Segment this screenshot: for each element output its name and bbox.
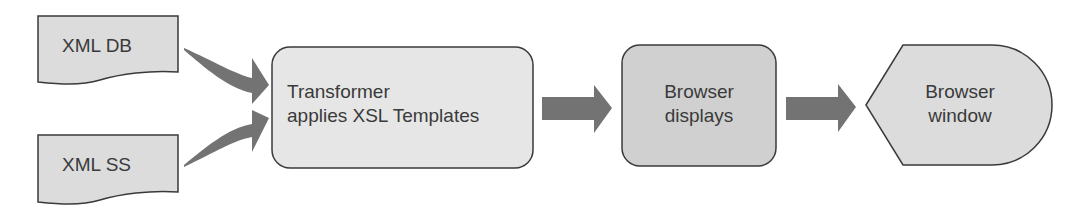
transformer-label-line2: applies XSL Templates — [287, 104, 479, 128]
browser-window-label-line1: Browser — [905, 80, 1015, 104]
arrow-xmlss-to-transformer — [184, 110, 269, 167]
browser-displays-label-line1: Browser — [622, 80, 776, 104]
xml-ss-label: XML SS — [62, 153, 131, 177]
arrow-xmldb-to-transformer — [184, 48, 269, 104]
transformer-label-line1: Transformer — [287, 80, 479, 104]
browser-displays-label-line2: displays — [622, 104, 776, 128]
arrow-transformer-to-browser — [542, 85, 612, 133]
xml-db-label: XML DB — [62, 34, 132, 58]
arrow-browser-to-window — [786, 84, 856, 132]
browser-displays-label: Browser displays — [622, 80, 776, 128]
browser-window-label-line2: window — [905, 104, 1015, 128]
browser-window-label: Browser window — [905, 80, 1015, 128]
transformer-label: Transformer applies XSL Templates — [287, 80, 479, 128]
